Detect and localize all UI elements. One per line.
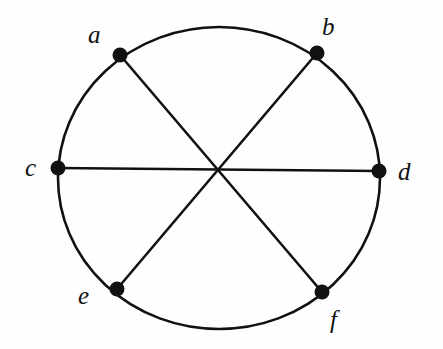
circle-outline <box>58 27 380 329</box>
vertex-point-f <box>315 285 330 300</box>
vertex-point-d <box>372 164 387 179</box>
vertex-label-b: b <box>322 14 335 39</box>
geometry-figure: a b c d e f <box>0 0 443 349</box>
vertex-point-b <box>310 46 325 61</box>
vertex-point-a <box>113 48 128 63</box>
vertex-label-a: a <box>88 22 101 47</box>
circle-outline-group <box>58 27 380 329</box>
diameter-a-f <box>120 55 322 292</box>
diameter-c-d <box>58 168 379 171</box>
vertex-label-c: c <box>25 155 36 180</box>
vertex-label-e: e <box>78 283 89 308</box>
vertex-point-c <box>51 161 66 176</box>
vertex-point-e <box>110 282 125 297</box>
vertex-label-d: d <box>398 159 411 184</box>
figure-svg <box>0 0 443 349</box>
vertex-label-f: f <box>330 307 337 332</box>
chords-group <box>58 53 379 292</box>
